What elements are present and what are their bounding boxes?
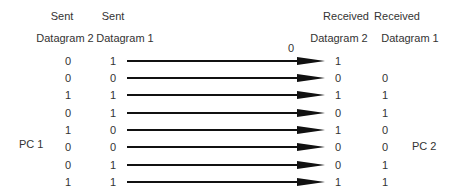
received-datagram-2-bit: 1 (335, 124, 341, 137)
stray-zero-label: 0 (288, 42, 294, 55)
sent-datagram-2-bit: 0 (65, 141, 71, 154)
received-datagram-2-bit: 0 (335, 141, 341, 154)
received-datagram-1-bit: 0 (382, 124, 388, 137)
sent-datagram-1-bit: 1 (110, 159, 116, 172)
sent-datagram-2-bit: 0 (65, 107, 71, 120)
received-datagram-1-bit: 1 (382, 176, 388, 189)
sent-datagram-2-bit: 0 (65, 159, 71, 172)
arrow-right-icon (127, 143, 325, 151)
arrow-right-icon (127, 126, 325, 134)
received-datagram-1-bit: 1 (382, 89, 388, 102)
received-datagram-1-header-line1: Received (374, 10, 420, 23)
sent-datagram-2-bit: 1 (65, 89, 71, 102)
received-datagram-2-bit: 1 (335, 176, 341, 189)
received-datagram-2-bit: 0 (335, 107, 341, 120)
arrow-right-icon (127, 178, 325, 186)
arrow-right-icon (127, 74, 325, 82)
sent-datagram-1-bit: 1 (110, 55, 116, 68)
sent-datagram-2-bit: 1 (65, 176, 71, 189)
received-datagram-1-header-line2: Datagram 1 (381, 32, 438, 45)
arrow-right-icon (127, 161, 325, 169)
sent-datagram-1-bit: 1 (110, 89, 116, 102)
sent-datagram-2-header-line2: Datagram 2 (36, 32, 93, 45)
arrow-right-icon (127, 57, 325, 65)
sent-datagram-1-bit: 0 (110, 72, 116, 85)
sent-datagram-1-bit: 0 (110, 124, 116, 137)
received-datagram-2-bit: 0 (335, 72, 341, 85)
arrow-right-icon (127, 91, 325, 99)
sent-datagram-1-bit: 1 (110, 176, 116, 189)
received-datagram-1-bit: 0 (382, 72, 388, 85)
received-datagram-1-bit: 1 (382, 159, 388, 172)
received-datagram-1-bit: 0 (382, 141, 388, 154)
received-datagram-2-bit: 1 (335, 89, 341, 102)
sent-datagram-2-header-line1: Sent (51, 10, 74, 23)
received-datagram-1-bit: 1 (382, 107, 388, 120)
sent-datagram-2-bit: 0 (65, 72, 71, 85)
arrow-right-icon (127, 109, 325, 117)
pc1-label: PC 1 (19, 138, 43, 151)
sent-datagram-1-header-line2: Datagram 1 (96, 32, 153, 45)
sent-datagram-2-bit: 1 (65, 124, 71, 137)
sent-datagram-1-bit: 0 (110, 141, 116, 154)
received-datagram-2-header-line1: Received (323, 10, 369, 23)
sent-datagram-2-bit: 0 (65, 55, 71, 68)
pc2-label: PC 2 (412, 140, 436, 153)
sent-datagram-1-bit: 1 (110, 107, 116, 120)
sent-datagram-1-header-line1: Sent (102, 10, 125, 23)
received-datagram-2-header-line2: Datagram 2 (310, 32, 367, 45)
received-datagram-2-bit: 1 (335, 55, 341, 68)
received-datagram-2-bit: 0 (335, 159, 341, 172)
